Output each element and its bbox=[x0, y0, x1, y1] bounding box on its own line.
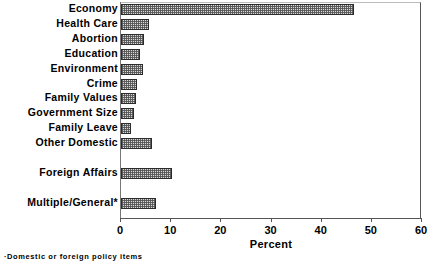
bar-chart: EconomyHealth CareAbortionEducationEnvir… bbox=[0, 0, 438, 268]
x-axis-tick-label: 50 bbox=[356, 224, 386, 236]
bar bbox=[121, 198, 156, 209]
x-axis-tick bbox=[421, 218, 422, 222]
x-axis-tick bbox=[321, 218, 322, 222]
x-axis-tick-label: 60 bbox=[406, 224, 436, 236]
bar bbox=[121, 168, 172, 179]
bar bbox=[121, 79, 137, 90]
bar bbox=[121, 49, 140, 60]
bar bbox=[121, 93, 136, 104]
x-axis-tick bbox=[170, 218, 171, 222]
bar bbox=[121, 138, 152, 149]
x-axis-tick bbox=[220, 218, 221, 222]
chart-footnote: ·Domestic or foreign policy items bbox=[4, 252, 143, 261]
bar bbox=[121, 34, 144, 45]
bar bbox=[121, 19, 149, 30]
x-axis-tick-label: 30 bbox=[256, 224, 286, 236]
x-axis-tick-label: 10 bbox=[155, 224, 185, 236]
x-axis-tick bbox=[371, 218, 372, 222]
x-axis-tick-label: 20 bbox=[205, 224, 235, 236]
x-axis-tick bbox=[120, 218, 121, 222]
bar bbox=[121, 64, 143, 75]
x-axis-tick-label: 40 bbox=[306, 224, 336, 236]
bar bbox=[121, 4, 354, 15]
x-axis-title: Percent bbox=[120, 238, 422, 250]
bar bbox=[121, 123, 131, 134]
x-axis-tick-label: 0 bbox=[105, 224, 135, 236]
bar bbox=[121, 108, 134, 119]
x-axis-tick bbox=[271, 218, 272, 222]
